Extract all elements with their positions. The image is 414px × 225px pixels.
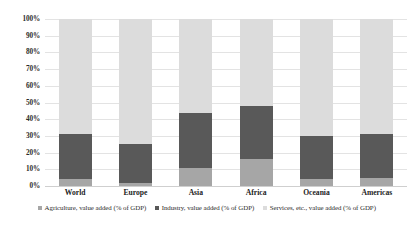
y-axis-tick: 80% [26, 48, 40, 56]
bar-segment-agriculture[interactable] [240, 159, 273, 186]
legend-swatch-icon [38, 206, 42, 210]
axis-baseline [45, 186, 407, 187]
bar-segment-industry[interactable] [360, 134, 393, 177]
y-axis-tick: 30% [26, 132, 40, 140]
legend-item-agriculture[interactable]: Agriculture, value added (% of GDP) [38, 204, 146, 211]
y-axis-tick: 60% [26, 82, 40, 90]
bar-group [119, 19, 152, 186]
bar-segment-industry[interactable] [300, 136, 333, 179]
legend-item-industry[interactable]: Industry, value added (% of GDP) [155, 204, 254, 211]
bar-stack[interactable] [119, 19, 152, 186]
bar-segment-agriculture[interactable] [59, 179, 92, 186]
bar-segment-industry[interactable] [59, 134, 92, 179]
bar-stack[interactable] [179, 19, 212, 186]
x-axis-label: Africa [226, 188, 286, 197]
bar-segment-agriculture[interactable] [119, 183, 152, 186]
bar-segment-agriculture[interactable] [300, 179, 333, 186]
bar-segment-agriculture[interactable] [360, 178, 393, 186]
x-axis-label: Americas [347, 188, 407, 197]
bar-stack[interactable] [240, 19, 273, 186]
x-axis-label: Europe [105, 188, 165, 197]
y-axis-tick: 100% [22, 15, 40, 23]
bar-group [179, 19, 212, 186]
stacked-bar-chart: 100% 90% 80% 70% 60% 50% 40% 30% 20% 10%… [0, 0, 414, 225]
y-axis-tick: 0% [29, 182, 40, 190]
bar-segment-services[interactable] [240, 19, 273, 106]
bar-segment-agriculture[interactable] [179, 168, 212, 186]
y-axis-tick: 10% [26, 165, 40, 173]
x-axis-labels: WorldEuropeAsiaAfricaOceaniaAmericas [45, 188, 407, 202]
y-axis-tick: 50% [26, 99, 40, 107]
bar-group [300, 19, 333, 186]
bar-segment-services[interactable] [179, 19, 212, 113]
bar-stack[interactable] [59, 19, 92, 186]
y-axis-tick: 90% [26, 32, 40, 40]
bar-group [360, 19, 393, 186]
chart-legend: Agriculture, value added (% of GDP) Indu… [0, 204, 414, 211]
legend-swatch-icon [155, 206, 159, 210]
bar-group [240, 19, 273, 186]
bar-group [59, 19, 92, 186]
bar-segment-industry[interactable] [119, 144, 152, 182]
bar-segment-services[interactable] [300, 19, 333, 136]
legend-swatch-icon [263, 206, 267, 210]
bars-layer [45, 19, 407, 186]
legend-label: Services, etc., value added (% of GDP) [270, 204, 376, 211]
bar-stack[interactable] [360, 19, 393, 186]
legend-item-services[interactable]: Services, etc., value added (% of GDP) [263, 204, 376, 211]
y-axis-tick: 40% [26, 115, 40, 123]
plot-area [45, 19, 407, 186]
x-axis-label: Asia [166, 188, 226, 197]
legend-label: Industry, value added (% of GDP) [162, 204, 254, 211]
y-axis-tick: 20% [26, 149, 40, 157]
bar-segment-industry[interactable] [240, 106, 273, 159]
x-axis-label: Oceania [286, 188, 346, 197]
legend-label: Agriculture, value added (% of GDP) [45, 204, 147, 211]
y-axis: 100% 90% 80% 70% 60% 50% 40% 30% 20% 10%… [0, 19, 44, 186]
bar-segment-services[interactable] [119, 19, 152, 144]
bar-stack[interactable] [300, 19, 333, 186]
bar-segment-industry[interactable] [179, 113, 212, 168]
x-axis-label: World [45, 188, 105, 197]
bar-segment-services[interactable] [59, 19, 92, 134]
bar-segment-services[interactable] [360, 19, 393, 134]
y-axis-tick: 70% [26, 65, 40, 73]
